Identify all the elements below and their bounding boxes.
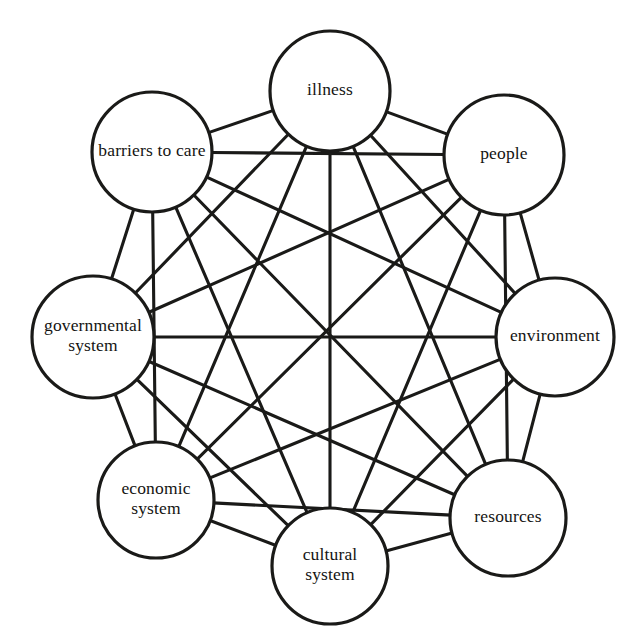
node-label-environment: environment — [510, 325, 600, 345]
node-label-people: people — [480, 143, 528, 163]
node-label-governmental: system — [68, 335, 118, 355]
edge-people-cultural — [352, 209, 481, 513]
node-label-governmental: governmental — [44, 315, 142, 335]
node-people[interactable]: people — [444, 95, 564, 215]
edge-environment-economic — [209, 359, 502, 479]
edge-environment-barriers — [206, 177, 503, 313]
node-label-illness: illness — [307, 79, 353, 99]
edge-people-barriers — [211, 153, 445, 155]
node-label-economic: economic — [121, 478, 190, 498]
diagram-canvas: illnesspeopleenvironmentresourcescultura… — [0, 0, 641, 644]
node-label-barriers: barriers to care — [98, 140, 205, 160]
edge-governmental-barriers — [111, 208, 134, 280]
node-label-cultural: cultural — [303, 544, 358, 564]
node-resources[interactable]: resources — [450, 460, 566, 576]
node-illness[interactable]: illness — [270, 31, 390, 151]
edge-people-environment — [520, 212, 539, 281]
edge-economic-governmental — [115, 393, 136, 447]
node-label-resources: resources — [474, 506, 541, 526]
node-cultural[interactable]: culturalsystem — [272, 508, 388, 624]
edge-cultural-economic — [209, 520, 276, 546]
node-economic[interactable]: economicsystem — [98, 442, 214, 558]
edge-illness-people — [385, 111, 448, 134]
edge-illness-barriers — [208, 110, 274, 133]
node-governmental[interactable]: governmentalsystem — [32, 276, 154, 398]
edge-resources-cultural — [385, 533, 453, 551]
node-label-cultural: system — [305, 564, 355, 584]
node-environment[interactable]: environment — [496, 278, 614, 396]
edge-environment-resources — [522, 393, 540, 463]
network-graph: illnesspeopleenvironmentresourcescultura… — [0, 0, 641, 644]
node-barriers[interactable]: barriers to care — [92, 92, 212, 212]
node-label-economic: system — [131, 498, 181, 518]
